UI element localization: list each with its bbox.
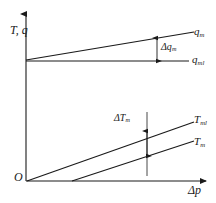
curve-label-q-m: qm	[194, 26, 204, 38]
figure-container: T, q Δp O qm qml Tml Tm Δqm ΔTm	[0, 0, 216, 203]
y-axis-label: T, q	[10, 24, 28, 36]
annotation-label-delta-q-m: Δqm	[161, 42, 176, 53]
curve-label-T-ml: Tml	[194, 114, 207, 126]
curve-label-q-ml: qml	[192, 54, 204, 66]
origin-label: O	[14, 171, 23, 183]
x-axis-label: Δp	[188, 184, 201, 196]
curve-T-m	[72, 141, 194, 181]
curve-T-ml	[27, 122, 194, 181]
curve-label-T-m: Tm	[194, 136, 205, 148]
plot-canvas	[0, 0, 216, 203]
annotation-label-delta-T-m: ΔTm	[114, 113, 130, 124]
